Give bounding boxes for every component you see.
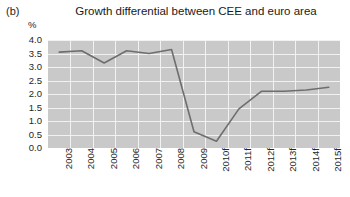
x-axis-tick-label: 2005 <box>109 148 119 194</box>
x-axis-tick-label: 2006 <box>131 148 141 194</box>
y-axis-tick-label: 4.0 <box>29 35 42 45</box>
x-axis-tick-label: 2003 <box>64 148 74 194</box>
y-axis-tick-label: 3.0 <box>29 62 42 72</box>
x-axis-tick-label: 2011f <box>243 148 253 194</box>
plot-area <box>48 40 340 148</box>
x-axis-tick-labels: 20032004200520062007200820092010f2011f20… <box>48 150 340 196</box>
y-axis-unit-label: % <box>28 20 36 30</box>
chart-title: Growth differential between CEE and euro… <box>48 4 344 18</box>
y-axis-tick-label: 0.5 <box>29 130 42 140</box>
y-axis-tick-label: 2.0 <box>29 89 42 99</box>
panel-label: (b) <box>6 5 19 18</box>
x-axis-tick-label: 2014f <box>311 148 321 194</box>
y-axis-tick-label: 1.5 <box>29 103 42 113</box>
x-axis-tick-label: 2012f <box>266 148 276 194</box>
x-axis-tick-label: 2013f <box>288 148 298 194</box>
y-axis-tick-label: 1.0 <box>29 116 42 126</box>
x-axis-tick-label: 2008 <box>176 148 186 194</box>
y-axis-tick-label: 2.5 <box>29 76 42 86</box>
x-axis-tick-label: 2004 <box>86 148 96 194</box>
x-axis-tick-label: 2010f <box>221 148 231 194</box>
y-axis-tick-label: 3.5 <box>29 49 42 59</box>
series-line-growth-differential <box>48 40 340 148</box>
x-axis-tick-label: 2007 <box>154 148 164 194</box>
y-axis-tick-labels: 0.00.51.01.52.02.53.03.54.0 <box>0 40 45 148</box>
y-axis-tick-label: 0.0 <box>29 143 42 153</box>
x-axis-tick-label: 2009 <box>199 148 209 194</box>
x-axis-tick-label: 2015f <box>333 148 343 194</box>
